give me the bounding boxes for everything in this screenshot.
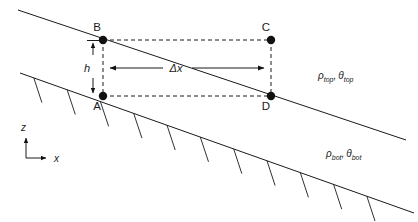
deltax-label: Δx	[169, 62, 183, 74]
geometry-diagram: ABCD h Δx ρtop,θtop ρbot,θbot z x	[0, 0, 418, 222]
region-bot-comma: ,	[341, 148, 344, 159]
x-axis-label: x	[53, 153, 60, 164]
hatch-mark	[100, 102, 108, 127]
slope-hatching	[34, 78, 375, 221]
hatch-mark	[334, 184, 342, 209]
z-axis-label: z	[20, 122, 26, 133]
hatch-mark	[234, 149, 242, 174]
theta-top-subscript: top	[344, 76, 354, 84]
corner-label-c: C	[262, 21, 270, 33]
corner-label-a: A	[93, 100, 101, 112]
corner-node-d	[267, 92, 275, 100]
corner-label-d: D	[262, 100, 270, 112]
bottom-region-label: ρbot,θbot	[325, 148, 362, 161]
hatch-mark	[67, 90, 75, 115]
hatch-mark	[300, 173, 308, 198]
bottom-slope	[20, 73, 414, 221]
coordinate-axes: z x	[20, 122, 60, 164]
svg-text:ρtop,θtop: ρtop,θtop	[317, 70, 354, 84]
bottom-slope-line	[20, 73, 414, 213]
corner-node-c	[267, 36, 275, 44]
hatch-mark	[267, 161, 275, 186]
hatch-mark	[200, 137, 208, 162]
diagram-canvas: ABCD h Δx ρtop,θtop ρbot,θbot z x	[0, 0, 418, 222]
hatch-mark	[134, 113, 142, 138]
hatch-mark	[34, 78, 42, 103]
hatch-mark	[167, 125, 175, 150]
theta-bot-subscript: bot	[352, 154, 363, 161]
height-label: h	[84, 62, 90, 74]
hatch-mark	[367, 196, 375, 221]
top-region-label: ρtop,θtop	[317, 70, 354, 84]
svg-text:ρbot,θbot: ρbot,θbot	[325, 148, 362, 161]
corner-node-b	[99, 36, 107, 44]
region-top-comma: ,	[333, 70, 336, 81]
corner-node-a	[99, 92, 107, 100]
corner-label-b: B	[93, 21, 101, 33]
rho-top-subscript: top	[324, 76, 334, 84]
